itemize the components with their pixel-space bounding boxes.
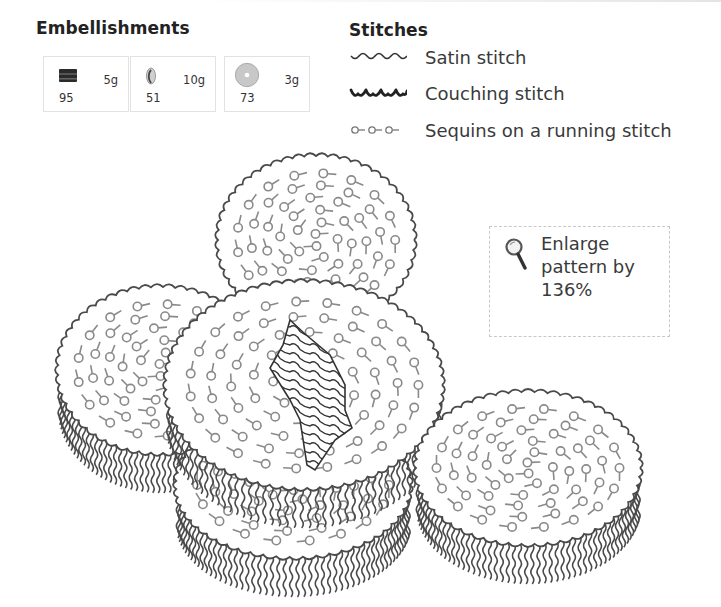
enlarge-line-2: pattern by [541,255,635,278]
enlarge-text: Enlarge pattern by 136% [541,232,635,301]
enlarge-line-1: Enlarge [541,232,635,255]
magnifier-icon [504,237,528,273]
enlarge-line-3: 136% [541,278,635,301]
right-disk [413,389,642,584]
enlarge-note: Enlarge pattern by 136% [489,226,670,337]
